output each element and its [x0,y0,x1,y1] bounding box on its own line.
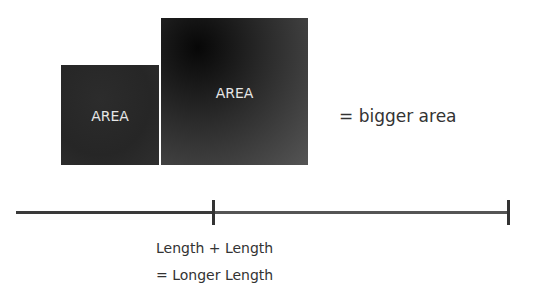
length-segment-2 [213,211,509,214]
length-sum-caption: Length + Length [156,240,273,256]
length-segment-1 [16,211,214,214]
small-area-square: AREA [61,65,159,165]
bigger-area-text: = bigger area [339,106,457,126]
small-area-label: AREA [91,108,129,124]
end-tick [507,200,510,225]
large-area-label: AREA [216,85,254,101]
large-area-square: AREA [161,18,308,165]
middle-tick [212,200,215,225]
longer-length-caption: = Longer Length [156,267,273,283]
